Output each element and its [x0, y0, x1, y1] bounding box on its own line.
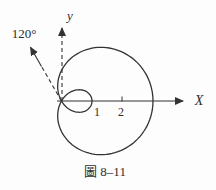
angle-ray-dashed [42, 66, 62, 101]
angle-ray-arrow [31, 47, 42, 66]
figure-caption: 圖 8–11 [84, 164, 126, 179]
x-axis-label: X [194, 93, 204, 108]
y-axis-label: y [65, 8, 73, 23]
x-tick-label-1: 1 [94, 105, 100, 119]
figure-canvas: X y 120° 1 2 圖 8–11 [0, 0, 216, 190]
figure-8-11: X y 120° 1 2 圖 8–11 [0, 0, 216, 190]
angle-label: 120° [12, 26, 37, 41]
x-tick-label-2: 2 [118, 105, 124, 119]
